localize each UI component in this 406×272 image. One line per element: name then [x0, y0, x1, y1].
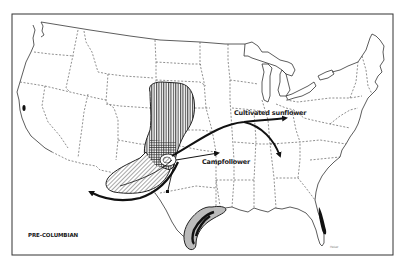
- great-lakes: [244, 42, 334, 102]
- sunflower-southeast-arrow: [244, 122, 280, 156]
- map-credit: Heiser: [330, 245, 338, 249]
- map-title: PRE-COLUMBIAN: [28, 232, 78, 238]
- california-range: [22, 105, 25, 111]
- campfollower-label: Campfollower: [202, 158, 250, 166]
- cultivated-sunflower-label: Cultivated sunflower: [234, 109, 306, 117]
- texas-coast-range: [184, 206, 226, 249]
- florida-range: [319, 207, 326, 235]
